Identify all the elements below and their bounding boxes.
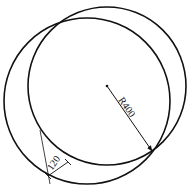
radius-label: R400 <box>116 95 137 119</box>
diagram-canvas: R400 120 <box>0 0 196 192</box>
gap-tick-2 <box>65 159 71 165</box>
radius-dimension-line <box>107 86 152 151</box>
